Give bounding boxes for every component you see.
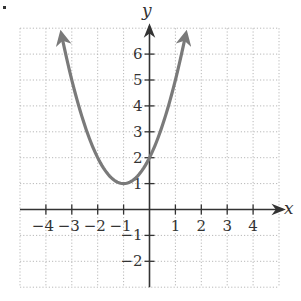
y-tick-label: −2	[120, 252, 142, 270]
x-tick-label: −4	[32, 217, 54, 235]
x-tick-label: 4	[248, 217, 258, 235]
x-axis-label: x	[284, 198, 294, 218]
y-tick-label: 6	[133, 45, 143, 63]
y-axis-label: y	[141, 0, 152, 20]
y-tick-label: −1	[120, 226, 142, 244]
x-tick-label: 1	[171, 217, 181, 235]
x-tick-label: −2	[84, 217, 106, 235]
x-tick-label: 3	[222, 217, 232, 235]
y-tick-label: 3	[133, 123, 143, 141]
x-tick-label: 2	[197, 217, 207, 235]
parabola-graph: −4−3−2−11234−2−1123456 x y	[0, 0, 301, 301]
y-tick-label: 5	[133, 71, 143, 89]
x-tick-label: −3	[58, 217, 80, 235]
y-tick-label: 4	[133, 97, 143, 115]
y-tick-label: 2	[133, 149, 143, 167]
